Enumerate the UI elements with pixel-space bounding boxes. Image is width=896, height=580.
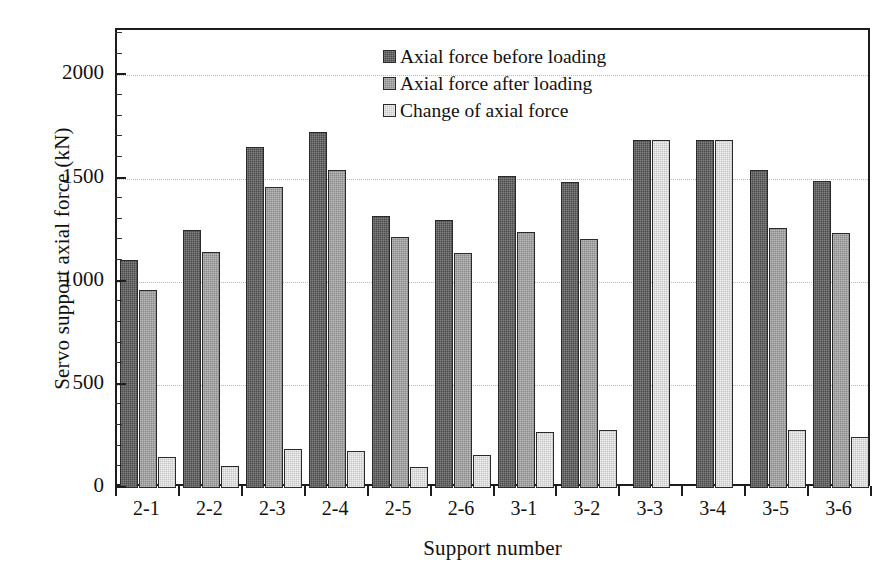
y-tick-label-2000: 2000 xyxy=(38,62,104,83)
x-tick-label-3-2: 3-2 xyxy=(555,498,618,518)
y-tick-1400 xyxy=(115,197,122,198)
bar-2-4-series-2 xyxy=(347,451,365,488)
y-tick-300 xyxy=(115,424,122,425)
bar-2-6-series-2 xyxy=(473,455,491,488)
bar-2-6-series-1 xyxy=(454,253,472,488)
y-tick-label-0: 0 xyxy=(38,475,104,496)
legend-item-0: Axial force before loading xyxy=(383,43,606,70)
x-tick-label-2-3: 2-3 xyxy=(241,498,304,518)
bar-3-5-series-1 xyxy=(769,228,787,488)
bar-2-5-series-0 xyxy=(372,216,390,488)
y-tick-1700 xyxy=(115,135,122,136)
bar-3-1-series-1 xyxy=(517,232,535,488)
x-tick-label-3-1: 3-1 xyxy=(493,498,556,518)
x-tick-3 xyxy=(304,486,306,496)
x-tick-10 xyxy=(744,486,746,496)
y-tick-1000 xyxy=(115,280,126,282)
bar-2-4-series-1 xyxy=(328,170,346,488)
bar-3-4-series-2 xyxy=(715,140,733,488)
legend-item-2: Change of axial force xyxy=(383,97,606,124)
y-tick-200 xyxy=(115,445,122,446)
bar-chart-figure: Servo support axial force (kN) 050010001… xyxy=(0,0,896,580)
y-tick-2200 xyxy=(115,32,122,33)
x-tick-label-3-3: 3-3 xyxy=(618,498,681,518)
bar-2-1-series-0 xyxy=(120,260,138,488)
x-tick-5 xyxy=(430,486,432,496)
x-tick-label-2-2: 2-2 xyxy=(178,498,241,518)
y-tick-2100 xyxy=(115,53,122,54)
x-tick-4 xyxy=(367,486,369,496)
legend-label-0: Axial force before loading xyxy=(400,43,606,70)
bar-2-3-series-1 xyxy=(265,187,283,488)
y-tick-500 xyxy=(115,383,126,385)
bar-3-5-series-2 xyxy=(788,430,806,488)
bar-3-6-series-0 xyxy=(813,181,831,488)
y-tick-400 xyxy=(115,403,122,404)
chart-legend: Axial force before loadingAxial force af… xyxy=(383,43,606,124)
bar-3-3-series-0 xyxy=(633,140,651,488)
bar-3-4-series-0 xyxy=(696,140,714,488)
y-tick-700 xyxy=(115,342,122,343)
x-tick-6 xyxy=(493,486,495,496)
bar-2-1-series-1 xyxy=(139,290,157,488)
x-tick-label-2-6: 2-6 xyxy=(430,498,493,518)
y-tick-1300 xyxy=(115,218,122,219)
x-tick-7 xyxy=(555,486,557,496)
bar-2-3-series-2 xyxy=(284,449,302,488)
x-tick-0 xyxy=(115,486,117,496)
x-tick-2 xyxy=(241,486,243,496)
y-tick-100 xyxy=(115,465,122,466)
x-tick-label-2-4: 2-4 xyxy=(304,498,367,518)
bar-3-2-series-0 xyxy=(561,182,579,488)
x-tick-12 xyxy=(870,486,872,496)
x-tick-11 xyxy=(807,486,809,496)
bar-2-4-series-0 xyxy=(309,132,327,488)
y-tick-1800 xyxy=(115,115,122,116)
bar-2-2-series-2 xyxy=(221,466,239,488)
x-axis-title: Support number xyxy=(115,536,870,561)
legend-swatch-icon-2 xyxy=(383,104,396,117)
x-tick-label-3-5: 3-5 xyxy=(744,498,807,518)
bar-2-3-series-0 xyxy=(246,147,264,488)
bar-3-1-series-2 xyxy=(536,432,554,488)
y-tick-2000 xyxy=(115,73,126,75)
y-tick-label-1500: 1500 xyxy=(38,166,104,187)
bar-3-6-series-1 xyxy=(832,233,850,488)
x-tick-9 xyxy=(681,486,683,496)
bar-2-5-series-2 xyxy=(410,467,428,488)
x-tick-label-2-1: 2-1 xyxy=(115,498,178,518)
y-tick-800 xyxy=(115,321,122,322)
y-tick-1200 xyxy=(115,238,122,239)
bar-2-6-series-0 xyxy=(435,220,453,488)
bar-3-6-series-2 xyxy=(851,437,869,488)
bar-2-1-series-2 xyxy=(158,457,176,488)
y-axis-title: Servo support axial force (kN) xyxy=(50,29,75,489)
bar-2-2-series-1 xyxy=(202,252,220,488)
y-tick-label-500: 500 xyxy=(38,372,104,393)
x-tick-label-3-4: 3-4 xyxy=(681,498,744,518)
bar-3-1-series-0 xyxy=(498,176,516,488)
y-tick-1900 xyxy=(115,94,122,95)
y-tick-label-1000: 1000 xyxy=(38,269,104,290)
bar-3-5-series-0 xyxy=(750,170,768,488)
legend-swatch-icon-0 xyxy=(383,50,396,63)
legend-label-2: Change of axial force xyxy=(400,97,568,124)
bar-3-2-series-1 xyxy=(580,239,598,488)
y-tick-1600 xyxy=(115,156,122,157)
x-tick-8 xyxy=(618,486,620,496)
x-tick-1 xyxy=(178,486,180,496)
bar-3-3-series-2 xyxy=(652,140,670,488)
bar-2-5-series-1 xyxy=(391,237,409,488)
x-tick-label-2-5: 2-5 xyxy=(367,498,430,518)
x-tick-label-3-6: 3-6 xyxy=(807,498,870,518)
y-tick-900 xyxy=(115,300,122,301)
bar-2-2-series-0 xyxy=(183,230,201,488)
legend-swatch-icon-1 xyxy=(383,77,396,90)
y-tick-1100 xyxy=(115,259,122,260)
bar-3-2-series-2 xyxy=(599,430,617,488)
y-tick-1500 xyxy=(115,177,126,179)
legend-item-1: Axial force after loading xyxy=(383,70,606,97)
y-tick-600 xyxy=(115,362,122,363)
legend-label-1: Axial force after loading xyxy=(400,70,592,97)
